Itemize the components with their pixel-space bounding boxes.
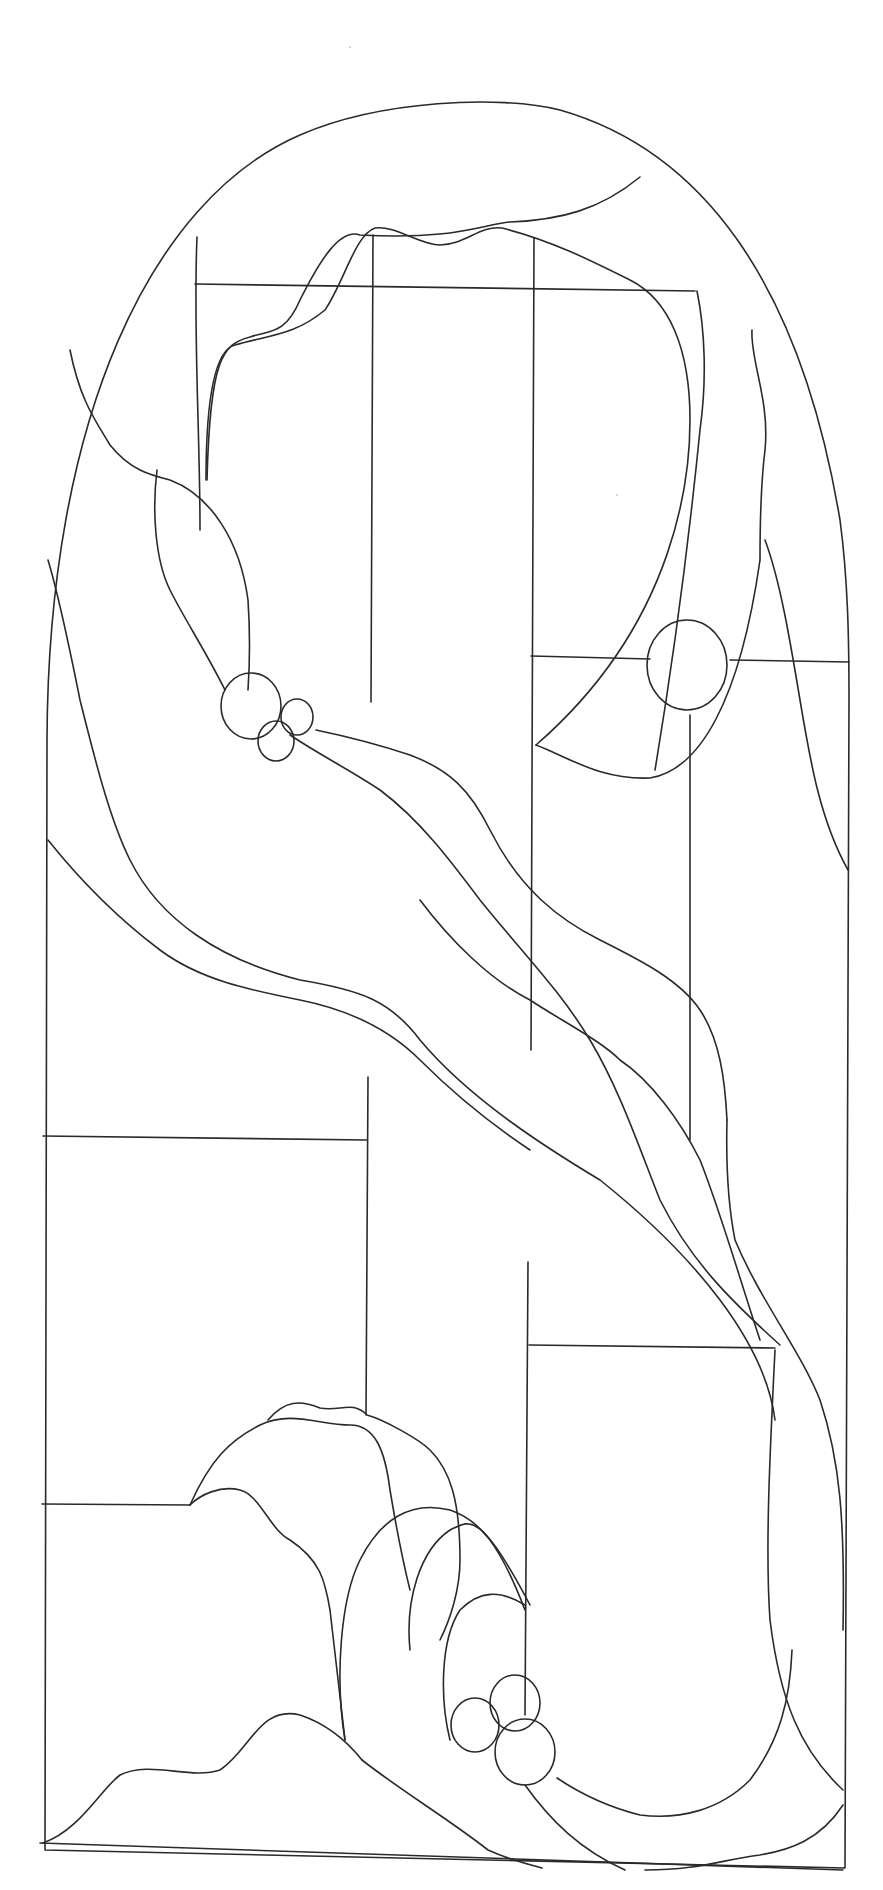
bottom-cluster-top-roundel: [490, 1675, 540, 1731]
center-right-stile-lower-lead: [525, 1262, 528, 1715]
swirl-inner-lead: [443, 1594, 525, 1740]
center-left-stile-lower-lead: [366, 1077, 368, 1415]
left-ribbon-inner-lead: [48, 840, 530, 1150]
left-lower-bar-lead: [42, 1504, 190, 1505]
frame-bottom-edge: [40, 1843, 843, 1870]
bottom-cluster-left-roundel: [451, 1698, 499, 1752]
right-upper-bar-lead: [531, 656, 849, 662]
top-crossbar-lead: [195, 284, 695, 291]
right-lower-bar-lead: [529, 1345, 775, 1348]
bottom-inner-diagonal-lead: [525, 1785, 625, 1870]
paper-speck: [616, 494, 618, 496]
top-cloud-outer-lead: [207, 177, 640, 480]
upper-left-cluster-large-roundel: [221, 673, 281, 739]
top-cloud-inner-lead: [206, 228, 690, 745]
upper-left-cluster-small-b-roundel: [258, 721, 294, 761]
arch-outline: [45, 102, 849, 1868]
center-right-stile-upper-lead: [531, 238, 534, 1050]
lead-lines: [42, 177, 849, 1870]
upper-left-wavy-a-lead: [70, 350, 250, 690]
bubble-band-lower-lead: [290, 735, 780, 1345]
center-left-stile-upper-lead: [371, 235, 373, 702]
stained-glass-window-pattern: [0, 0, 883, 1890]
right-long-band-lead: [727, 1120, 844, 1630]
swirl-outer-lead: [340, 1507, 525, 1740]
left-middle-bar-lead: [43, 1136, 367, 1140]
bottom-right-sweep-lead: [557, 1650, 792, 1816]
right-edge-ribbon-lead: [765, 540, 848, 870]
upper-left-cluster-small-a-roundel: [281, 699, 313, 735]
window-frame: [40, 102, 849, 1870]
glass-roundels: [221, 620, 727, 1785]
upper-left-wavy-b-lead: [155, 470, 225, 690]
bottom-left-hills-lead: [43, 1714, 362, 1843]
bottom-diagonal-lead: [362, 1760, 542, 1868]
top-right-band-outer-lead: [655, 291, 704, 770]
hill-inner-step-lead: [190, 1489, 345, 1740]
left-ribbon-outer-lead: [48, 560, 775, 1420]
hill-outer-lead: [190, 1418, 410, 1590]
hill-top-scallop-lead: [268, 1403, 460, 1640]
paper-speck: [349, 46, 351, 48]
swirl-middle-lead: [409, 1524, 530, 1650]
top-right-band-inner-lead: [752, 330, 766, 560]
top-left-stile-lead: [196, 237, 200, 530]
right-sun-roundel: [647, 620, 727, 710]
